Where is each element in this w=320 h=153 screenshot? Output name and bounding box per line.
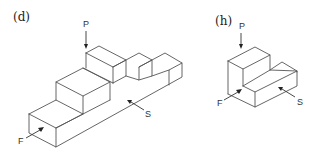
figure-d-arrow-s: [131, 102, 144, 110]
figure-d-label-s: S: [145, 109, 151, 119]
d-base-top-right: [56, 114, 83, 128]
d-top-block-top: [86, 46, 126, 67]
figure-d-caption: (d): [13, 10, 30, 24]
figure-h-arrowhead-p-icon: [239, 44, 243, 49]
figure-d-label-p: P: [83, 19, 89, 29]
h-tall-block-top: [228, 47, 270, 69]
d-base-bottom-right: [56, 63, 182, 147]
figure-d: (d) P: [13, 10, 182, 147]
h-low-block-top: [243, 70, 297, 86]
figure-h-shape: [228, 47, 297, 107]
figure-h-arrowhead-f-icon: [236, 89, 242, 94]
figure-d-shape: [29, 46, 182, 147]
figure-d-arrowhead-p-icon: [84, 44, 88, 49]
figure-h-label-p: P: [239, 21, 245, 31]
figure-d-arrow-f: [26, 130, 40, 138]
d-second-step: [56, 68, 110, 114]
figure-h-label-s: S: [297, 97, 303, 107]
figure-h-caption: (h): [215, 14, 232, 28]
figure-h: (h) P F S: [215, 14, 303, 108]
figure-h-label-f: F: [217, 98, 223, 108]
d-second-step-right: [83, 100, 110, 114]
figure-d-label-f: F: [18, 136, 24, 146]
d-second-step-front: [56, 82, 83, 96]
d-bottom-step-top: [29, 100, 83, 128]
d-bottom-step-front: [29, 114, 56, 147]
diagram-canvas: (d) P: [0, 0, 320, 153]
d-notch-1-back: [113, 53, 152, 80]
figure-d-arrowhead-f-icon: [38, 127, 44, 132]
d-top-block-front-bottom: [83, 68, 113, 83]
d-rear-top: [152, 70, 169, 76]
figure-h-arrow-f: [224, 92, 238, 100]
